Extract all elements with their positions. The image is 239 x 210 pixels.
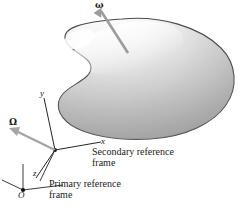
primary-axis-left	[2, 180, 23, 190]
secondary-axis-x-label: x	[101, 136, 105, 146]
primary-origin-label: O	[18, 190, 25, 200]
secondary-axis-y-label: y	[40, 88, 44, 98]
secondary-frame-caption: Secondary reference frame	[92, 146, 174, 168]
secondary-frame-caption-line2: frame	[92, 157, 174, 168]
omega-label: ω	[95, 0, 104, 10]
primary-axis-z-to-secondary	[40, 150, 55, 181]
primary-axis-z-label: z	[33, 168, 37, 178]
secondary-frame-caption-line1: Secondary reference	[92, 146, 174, 157]
primary-frame-caption-line1: Primary reference	[49, 178, 121, 189]
capital-omega-label: Ω	[9, 117, 17, 127]
figure-canvas: ω Ω y x z O Secondary reference frame Pr…	[0, 0, 239, 210]
primary-frame-caption-line2: frame	[49, 189, 121, 200]
primary-frame-caption: Primary reference frame	[49, 178, 121, 200]
